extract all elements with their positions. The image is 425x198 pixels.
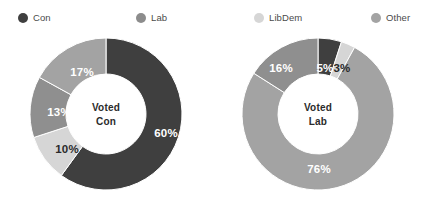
donut-svg-voted-lab	[238, 34, 398, 194]
legend-label-libdem: LibDem	[269, 13, 302, 23]
legend-item-libdem[interactable]: LibDem	[254, 13, 302, 23]
legend-item-other[interactable]: Other	[371, 13, 410, 23]
legend-swatch-libdem-icon	[254, 13, 264, 23]
legend-swatch-other-icon	[371, 13, 381, 23]
legend-item-con[interactable]: Con	[18, 13, 51, 23]
legend-label-lab: Lab	[151, 13, 167, 23]
donut-charts-container: Voted Con Voted Lab 60%10%13%17%5%3%76%1…	[0, 30, 425, 198]
legend-swatch-con-icon	[18, 13, 28, 23]
legend-label-other: Other	[386, 13, 410, 23]
legend-item-lab[interactable]: Lab	[136, 13, 167, 23]
donut-chart-voted-con: Voted Con	[0, 30, 212, 198]
donut-svg-voted-con	[26, 34, 186, 194]
donut-chart-voted-lab: Voted Lab	[212, 30, 424, 198]
legend-label-con: Con	[33, 13, 51, 23]
legend-swatch-lab-icon	[136, 13, 146, 23]
